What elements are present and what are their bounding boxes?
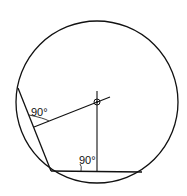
- angle-label-upper: 90°: [31, 106, 48, 118]
- geometry-diagram: 90° 90°: [0, 0, 187, 196]
- left-chord: [18, 88, 51, 171]
- angle-label-lower: 90°: [79, 154, 96, 166]
